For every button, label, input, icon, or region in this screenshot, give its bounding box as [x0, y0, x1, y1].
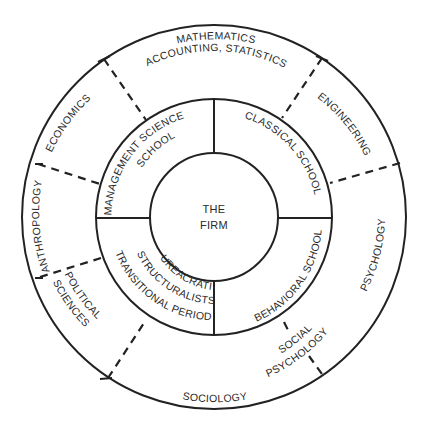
center-label-line2: FIRM: [200, 219, 228, 231]
outer-ring: [22, 25, 406, 409]
dashed-dividers: [35, 56, 400, 379]
discipline-anthropology: ANTHROPOLOGY: [29, 179, 52, 275]
center-label-line1: THE: [203, 203, 226, 215]
firm-disciplines-diagram: THE FIRM MANAGEMENT SCIENCE SCHOOL CLASS…: [0, 0, 424, 435]
discipline-accounting-statistics: ACCOUNTING, STATISTICS: [143, 41, 289, 70]
discipline-psychology: PSYCHOLOGY: [357, 218, 387, 293]
discipline-sociology: SOCIOLOGY: [182, 389, 248, 404]
discipline-economics: ECONOMICS: [43, 91, 93, 153]
